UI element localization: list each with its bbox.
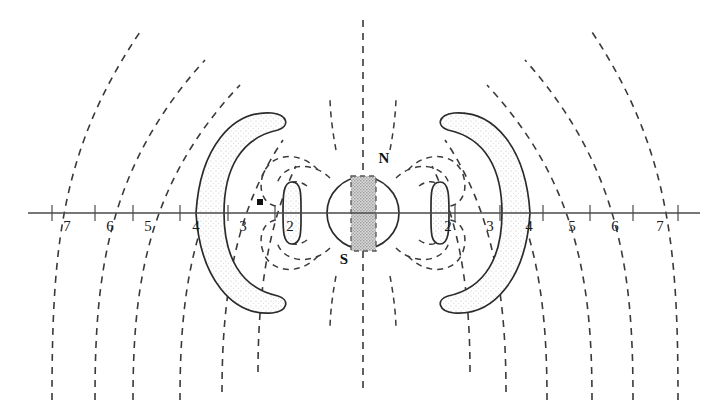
axis-label-right-2: 2	[444, 218, 452, 235]
axis-label-right-7: 7	[656, 218, 664, 235]
axis-label-left-6: 6	[106, 218, 114, 235]
dashed-contours-left	[52, 32, 296, 400]
axis-label-left-3: 3	[239, 218, 247, 235]
north-pole-label: N	[379, 150, 390, 167]
axis-label-left-4: 4	[192, 218, 200, 235]
axis-label-right-4: 4	[525, 218, 533, 235]
axis-label-left-5: 5	[144, 218, 152, 235]
dashed-contours-right	[432, 32, 678, 400]
axis-label-left-7: 7	[63, 218, 71, 235]
point-marker	[257, 199, 263, 205]
magnetic-field-figure: 7 6 5 4 3 2 2 3 4 5 6 7 N S	[0, 0, 724, 410]
axis-label-right-6: 6	[611, 218, 619, 235]
south-pole-label: S	[340, 251, 348, 268]
axis-label-right-3: 3	[486, 218, 494, 235]
field-plot-svg	[0, 0, 724, 410]
axis-label-left-2: 2	[286, 218, 294, 235]
axis-label-right-5: 5	[568, 218, 576, 235]
